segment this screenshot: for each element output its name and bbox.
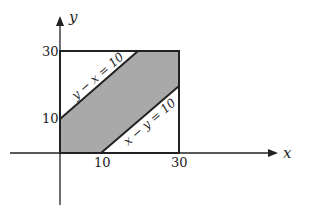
- x-axis-arrow-icon: [268, 149, 278, 157]
- diagram: x y 10 30 10 30 y − x = 10 x − y = 10: [0, 0, 313, 217]
- x-tick-10: 10: [94, 155, 111, 170]
- y-axis-label: y: [68, 8, 78, 26]
- y-tick-30: 30: [42, 44, 59, 59]
- x-axis-label: x: [283, 144, 292, 162]
- x-tick-30: 30: [171, 155, 188, 170]
- y-tick-10: 10: [42, 111, 59, 126]
- y-axis-arrow-icon: [56, 16, 64, 26]
